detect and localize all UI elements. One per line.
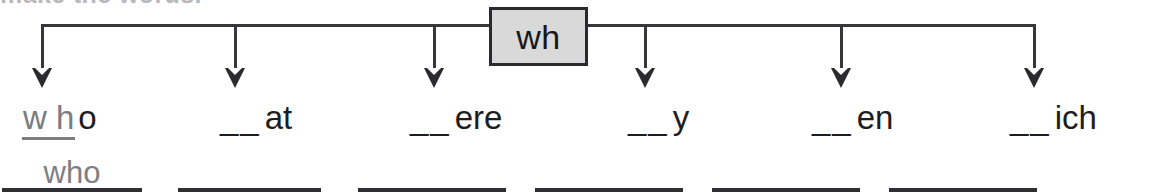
answer-1-handwriting: who [2, 156, 142, 189]
word-prompt-row: w ho __at __ere __y __en __ich [0, 96, 1153, 146]
word-prompt-5: __en [812, 96, 893, 144]
branching-arrow-diagram: wh [0, 0, 1153, 100]
word-5-rest: en [857, 99, 894, 136]
branch-stem-2 [234, 24, 237, 70]
arrowhead-5 [831, 68, 851, 88]
word-4-rest: y [673, 99, 690, 136]
answer-line-row: who [0, 150, 1153, 195]
worksheet-canvas: make the words. wh w ho __at [0, 0, 1153, 195]
answer-6-rule [889, 188, 1037, 192]
branch-stem-3 [433, 24, 436, 70]
horizontal-connector-left [41, 24, 490, 27]
word-prompt-1: w ho [22, 96, 97, 144]
answer-1-rule [2, 188, 142, 192]
answer-2-rule [178, 188, 321, 192]
root-grapheme-box: wh [489, 7, 588, 66]
horizontal-connector-right [587, 24, 1035, 27]
answer-slot-1[interactable]: who [2, 150, 142, 192]
word-3-blanks: __ [410, 99, 451, 136]
answer-5-rule [712, 188, 860, 192]
arrowhead-1 [32, 68, 52, 88]
branch-stem-4 [644, 24, 647, 70]
word-prompt-3: __ere [410, 96, 502, 144]
word-1-rest: o [78, 99, 96, 136]
arrowhead-6 [1024, 68, 1044, 88]
word-5-blanks: __ [812, 99, 853, 136]
word-2-rest: at [265, 99, 293, 136]
answer-4-rule [535, 188, 683, 192]
arrowhead-2 [225, 68, 245, 88]
branch-stem-6 [1033, 24, 1036, 70]
word-prompt-4: __y [628, 96, 689, 144]
arrowhead-3 [424, 68, 444, 88]
branch-stem-1 [41, 24, 44, 70]
word-prompt-2: __at [220, 96, 292, 144]
answer-slot-6[interactable] [889, 150, 1037, 192]
answer-slot-5[interactable] [712, 150, 860, 192]
answer-slot-3[interactable] [358, 150, 506, 192]
word-6-blanks: __ [1010, 99, 1051, 136]
word-4-blanks: __ [628, 99, 669, 136]
answer-3-rule [358, 188, 506, 192]
word-6-rest: ich [1055, 99, 1097, 136]
branch-stem-5 [840, 24, 843, 70]
arrowhead-4 [635, 68, 655, 88]
word-2-blanks: __ [220, 99, 261, 136]
answer-slot-4[interactable] [535, 150, 683, 192]
root-grapheme-label: wh [516, 20, 560, 54]
word-prompt-6: __ich [1010, 96, 1097, 144]
word-1-filled-letters: w h [22, 99, 75, 140]
word-3-rest: ere [455, 99, 503, 136]
answer-slot-2[interactable] [178, 150, 321, 192]
